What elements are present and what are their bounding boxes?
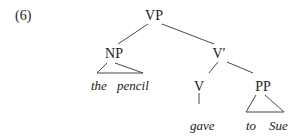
node-vbar: V′	[212, 46, 225, 61]
example-number: (6)	[15, 8, 32, 24]
edge-vp-np	[118, 24, 148, 44]
leaf-to: to	[246, 118, 257, 133]
node-pp: PP	[255, 79, 271, 94]
leaf-sue: Sue	[269, 118, 288, 133]
edge-vbar-v	[209, 62, 218, 73]
syntax-tree: (6) VP NP V′ V PP the pencil gave to Sue	[0, 0, 305, 137]
pp-triangle	[246, 95, 284, 112]
node-v: V	[194, 79, 204, 94]
node-np: NP	[105, 46, 123, 61]
edge-vp-vbar	[162, 24, 214, 44]
leaf-the: the	[91, 78, 107, 93]
leaf-pencil: pencil	[116, 78, 149, 93]
np-triangle	[97, 63, 143, 73]
edge-vbar-pp	[227, 62, 253, 73]
leaf-gave: gave	[190, 118, 215, 133]
node-vp: VP	[145, 8, 163, 23]
